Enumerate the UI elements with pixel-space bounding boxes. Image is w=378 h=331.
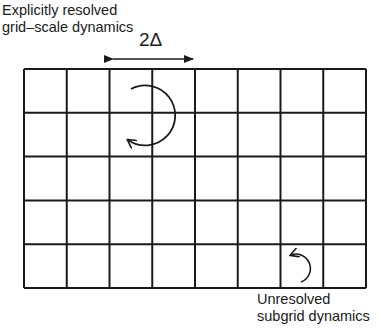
unresolved-label-line1: Unresolved	[257, 291, 370, 308]
unresolved-label-line2: subgrid dynamics	[257, 308, 370, 325]
unresolved-dynamics-label: Unresolved subgrid dynamics	[257, 291, 370, 325]
subgrid-eddy-arrow-icon	[291, 254, 310, 282]
grid-diagram	[0, 0, 378, 331]
computational-grid	[24, 69, 366, 288]
